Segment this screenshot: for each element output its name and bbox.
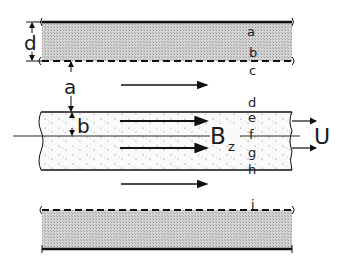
level-label-f: f bbox=[249, 127, 254, 142]
level-label-g: g bbox=[248, 145, 256, 160]
diagram-canvas: d a b B z U a b bbox=[0, 0, 345, 266]
field-label-b: B bbox=[210, 123, 226, 149]
field-label-subscript: z bbox=[228, 139, 235, 154]
level-label-h: h bbox=[248, 162, 256, 177]
label-d: d bbox=[24, 31, 37, 55]
level-label-d: d bbox=[248, 95, 256, 110]
dimension-d: d bbox=[24, 22, 42, 61]
level-label-b: b bbox=[249, 45, 257, 60]
velocity-label-u: U bbox=[314, 124, 330, 149]
bottom-wall bbox=[40, 206, 294, 253]
level-label-a: a bbox=[247, 24, 255, 39]
label-b: b bbox=[77, 114, 90, 138]
label-a: a bbox=[64, 75, 76, 99]
level-label-e: e bbox=[248, 110, 256, 125]
dimension-a: a bbox=[64, 62, 76, 111]
level-labels: a b c d e f g h i bbox=[247, 24, 257, 212]
level-label-c: c bbox=[249, 63, 256, 78]
